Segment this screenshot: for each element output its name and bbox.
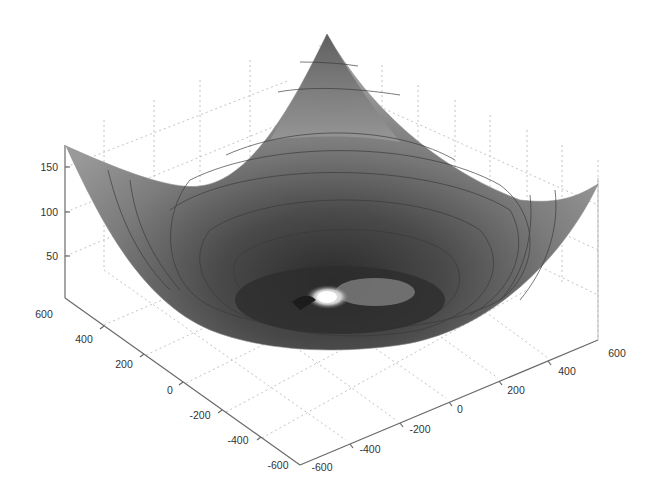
svg-text:100: 100 xyxy=(40,206,58,218)
svg-text:-200: -200 xyxy=(409,423,430,435)
svg-text:400: 400 xyxy=(558,365,576,377)
svg-text:-400: -400 xyxy=(227,434,248,446)
svg-text:-200: -200 xyxy=(189,409,210,421)
svg-text:0: 0 xyxy=(457,403,463,415)
surface-plot: 150 100 50 600 400 200 0 -200 -400 -600 … xyxy=(0,0,660,500)
svg-text:200: 200 xyxy=(115,358,133,370)
z-tick-labels: 150 100 50 xyxy=(40,161,58,262)
svg-text:0: 0 xyxy=(167,384,173,396)
svg-text:-400: -400 xyxy=(359,443,380,455)
y-tick-labels: -600 -400 -200 0 200 400 600 xyxy=(311,347,625,473)
svg-text:150: 150 xyxy=(40,161,58,173)
svg-text:200: 200 xyxy=(507,384,525,396)
svg-text:-600: -600 xyxy=(311,461,332,473)
svg-text:600: 600 xyxy=(35,308,53,320)
surface xyxy=(66,34,598,350)
svg-text:-600: -600 xyxy=(267,459,288,471)
svg-text:50: 50 xyxy=(46,250,58,262)
svg-text:400: 400 xyxy=(75,333,93,345)
svg-text:600: 600 xyxy=(608,347,626,359)
